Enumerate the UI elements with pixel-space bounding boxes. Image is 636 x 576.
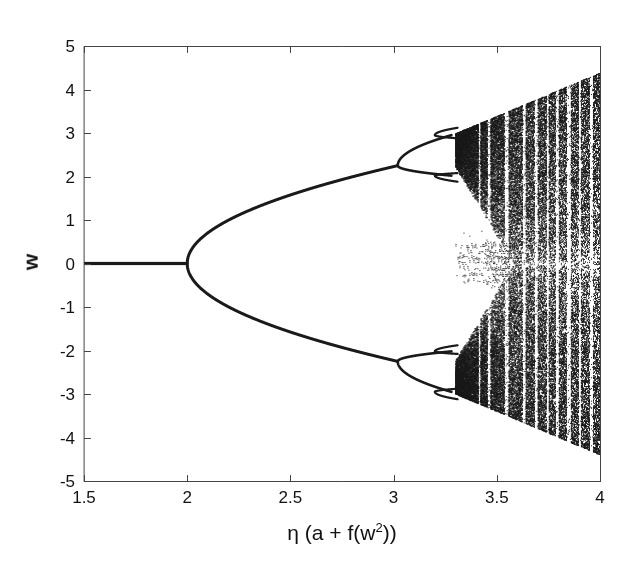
x-tick-label: 3.5 [485,489,509,506]
y-tick-label: -5 [60,473,75,490]
y-tick-label: -4 [60,429,75,446]
y-tick-label: -1 [60,299,75,316]
x-axis-label-prefix: η (a + f(w [287,521,375,544]
y-tick-label: -3 [60,386,75,403]
y-tick-label: 4 [66,81,75,98]
x-axis-label-suffix: )) [383,521,397,544]
x-tick-label: 4 [595,489,604,506]
x-tick-label: 2.5 [279,489,303,506]
y-tick-label: 1 [66,212,75,229]
x-tick-label: 3 [389,489,398,506]
y-tick-label: 0 [66,255,75,272]
bifurcation-figure: w η (a + f(w2)) 1.522.533.54 543210-1-2-… [0,0,636,576]
y-axis-label: w [20,254,41,270]
x-axis-label: η (a + f(w2)) [287,522,396,543]
x-tick-label: 2 [182,489,191,506]
y-tick-label: 2 [66,168,75,185]
y-tick-label: 5 [66,38,75,55]
y-tick-label: 3 [66,125,75,142]
x-tick-label: 1.5 [72,489,96,506]
y-tick-label: -2 [60,342,75,359]
